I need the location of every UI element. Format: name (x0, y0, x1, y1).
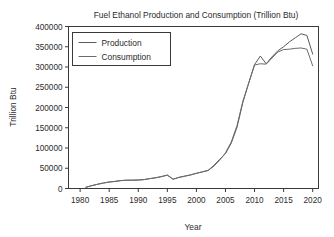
chart-figure: Fuel Ethanol Production and Consumption … (0, 0, 334, 237)
legend-label-consumption[interactable]: Consumption (102, 52, 152, 62)
legend-label-production[interactable]: Production (102, 38, 142, 48)
y-tick-label: 50000 (40, 164, 63, 173)
chart-canvas: Fuel Ethanol Production and Consumption … (0, 0, 334, 237)
y-axis-label: Trillion Btu (8, 87, 18, 127)
y-tick-label: 100000 (35, 144, 63, 153)
y-tick-label: 0 (58, 185, 63, 194)
x-tick-label: 2015 (275, 196, 294, 205)
x-tick-label: 2010 (245, 196, 264, 205)
y-tick-label: 250000 (35, 83, 63, 92)
x-tick-label: 1985 (100, 196, 119, 205)
chart-title: Fuel Ethanol Production and Consumption … (94, 10, 299, 20)
y-tick-label: 350000 (35, 43, 63, 52)
y-axis-ticks: 0500001000001500002000002500003000003500… (35, 23, 68, 194)
x-axis-label: Year (185, 222, 202, 232)
x-tick-label: 1995 (158, 196, 177, 205)
x-axis-ticks: 198019851990199520002005201020152020 (71, 189, 322, 205)
y-tick-label: 200000 (35, 104, 63, 113)
chart-legend[interactable]: ProductionConsumption (73, 33, 171, 66)
series-line-consumption (86, 48, 313, 187)
x-tick-label: 1990 (129, 196, 148, 205)
y-tick-label: 150000 (35, 124, 63, 133)
x-tick-label: 2020 (304, 196, 323, 205)
x-tick-label: 2005 (216, 196, 235, 205)
y-tick-label: 300000 (35, 63, 63, 72)
x-tick-label: 2000 (187, 196, 206, 205)
x-tick-label: 1980 (71, 196, 90, 205)
y-tick-label: 400000 (35, 23, 63, 32)
